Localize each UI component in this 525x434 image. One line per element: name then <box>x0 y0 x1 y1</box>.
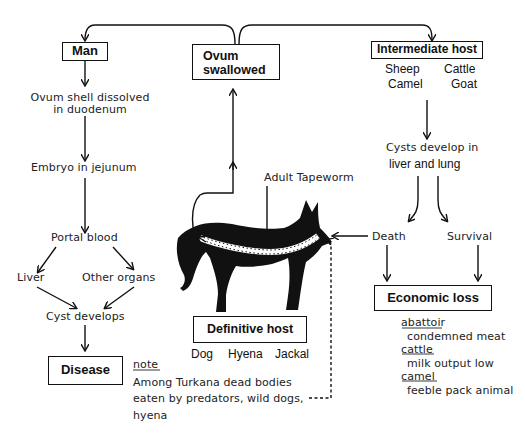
note-heading: note <box>133 358 158 371</box>
man-step-portal-blood: Portal blood <box>51 231 118 244</box>
note-line3: hyena <box>133 409 167 422</box>
note-line2: eaten by predators, wild dogs, <box>133 392 304 405</box>
dog-silhouette <box>177 200 332 312</box>
man-branch-other-organs: Other organs <box>82 271 155 284</box>
man-step-embryo: Embryo in jejunum <box>31 161 137 174</box>
ovum-swallowed-box: Ovum swallowed <box>192 44 280 80</box>
host-sheep: Sheep <box>385 62 420 76</box>
ovum-swallowed-line2: swallowed <box>203 63 279 77</box>
host-camel: Camel <box>388 77 423 91</box>
intermediate-host-box: Intermediate host <box>371 41 483 59</box>
host-goat: Goat <box>451 77 477 91</box>
definitive-host-jackal: Jackal <box>275 347 309 361</box>
definitive-host-dog: Dog <box>191 347 213 361</box>
man-label: Man <box>72 43 98 58</box>
adult-tapeworm-label: Adult Tapeworm <box>264 171 354 184</box>
definitive-host-box: Definitive host <box>193 316 307 343</box>
man-box: Man <box>62 42 108 61</box>
cysts-develop-line1: Cysts develop in <box>386 141 478 154</box>
outcome-survival: Survival <box>447 230 492 243</box>
loss-detail-cattle: milk output low <box>407 357 494 370</box>
economic-loss-label: Economic loss <box>387 290 479 305</box>
host-cattle: Cattle <box>444 62 475 76</box>
loss-heading-cattle: cattle <box>401 343 433 356</box>
loss-detail-abattoir: condemned meat <box>407 330 505 343</box>
intermediate-host-label: Intermediate host <box>377 42 477 56</box>
man-step-ovum-shell: Ovum shell dissolved in duodenum <box>30 92 150 116</box>
disease-label: Disease <box>61 362 110 377</box>
cysts-develop-line2: liver and lung <box>389 157 460 171</box>
outcome-death: Death <box>372 230 406 243</box>
man-branch-liver: Liver <box>17 271 44 284</box>
definitive-host-hyena: Hyena <box>228 347 263 361</box>
man-step-cyst-develops: Cyst develops <box>46 310 125 323</box>
note-line1: Among Turkana dead bodies <box>133 376 292 389</box>
definitive-host-label: Definitive host <box>207 322 293 336</box>
ovum-swallowed-line1: Ovum <box>203 49 279 63</box>
loss-detail-camel: feeble pack animal <box>407 384 513 397</box>
step1-line2: in duodenum <box>30 104 150 116</box>
loss-heading-camel: camel <box>401 370 435 383</box>
economic-loss-box: Economic loss <box>374 285 492 311</box>
loss-heading-abattoir: abattoir <box>401 316 445 329</box>
disease-box: Disease <box>48 356 123 385</box>
